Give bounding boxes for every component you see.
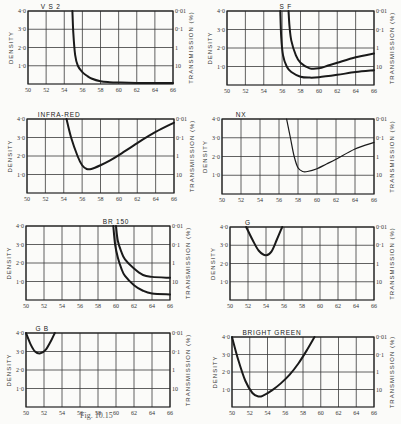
chart-title: G B <box>35 325 49 332</box>
x-tick-label: 58 <box>300 410 306 416</box>
data-curve <box>287 119 374 172</box>
x-tick-label: 56 <box>282 410 288 416</box>
chart-panel-br-150: 5052545658606264661·02·03·04·01010·10·01… <box>6 218 191 309</box>
x-tick-label: 64 <box>352 197 358 203</box>
y-tick-label: 3·0 <box>17 135 25 141</box>
x-tick-label: 64 <box>353 88 359 94</box>
y-axis-title: DENSITY <box>210 247 216 280</box>
y-tick-label: 3·0 <box>217 27 225 33</box>
y2-tick-label: 0·01 <box>376 224 387 230</box>
data-curve <box>72 11 173 83</box>
y2-tick-label: 10 <box>376 387 382 393</box>
x-tick-label: 56 <box>281 303 287 309</box>
y2-tick-label: 0·1 <box>376 135 384 141</box>
x-tick-label: 62 <box>335 303 341 309</box>
chart-title: BRIGHT GREEN <box>242 329 301 336</box>
x-tick-label: 54 <box>257 197 263 203</box>
chart-panel-s-f: 5052545658606264661·02·03·04·01010·10·01… <box>207 3 395 94</box>
y-tick-label: 3·0 <box>212 135 220 141</box>
x-tick-label: 50 <box>24 196 30 202</box>
x-tick-label: 50 <box>227 303 233 309</box>
data-curve <box>232 337 315 397</box>
chart-title: G <box>245 219 251 226</box>
y2-tick-label: 0·01 <box>376 8 387 14</box>
x-tick-label: 64 <box>353 303 359 309</box>
chart-panel-v-s-2: 5052545658606264661·02·03·04·01010·10·01… <box>8 3 194 93</box>
x-tick-label: 60 <box>318 410 324 416</box>
y2-tick-label: 0·1 <box>172 242 180 248</box>
x-tick-label: 64 <box>152 87 158 93</box>
x-tick-label: 64 <box>149 410 155 416</box>
y-tick-label: 1·0 <box>16 279 24 285</box>
y2-tick-label: 10 <box>376 64 382 70</box>
x-tick-label: 52 <box>245 303 251 309</box>
y2-tick-label: 10 <box>175 63 181 69</box>
y-tick-label: 4·0 <box>18 8 26 14</box>
y2-axis-title: TRANSMISSION (%) <box>389 336 395 409</box>
y-tick-label: 3·0 <box>220 242 228 248</box>
x-tick-label: 54 <box>59 303 65 309</box>
x-tick-label: 50 <box>229 410 235 416</box>
y-tick-label: 2·0 <box>17 153 25 159</box>
x-tick-label: 62 <box>134 87 140 93</box>
x-tick-label: 66 <box>167 410 173 416</box>
y2-tick-label: 10 <box>172 386 178 392</box>
y-tick-label: 4·0 <box>222 334 230 340</box>
y2-tick-label: 10 <box>376 279 382 285</box>
y-tick-label: 4·0 <box>217 8 225 14</box>
data-curve <box>67 119 174 169</box>
y2-tick-label: 0·1 <box>376 27 384 33</box>
chart-panel-g: 5052545658606264661·02·03·04·01010·10·01… <box>210 219 395 309</box>
y2-axis-title: TRANSMISSION (%) <box>185 227 191 300</box>
y2-tick-label: 1 <box>376 45 379 51</box>
x-tick-label: 62 <box>131 410 137 416</box>
data-curve <box>280 11 374 78</box>
x-tick-label: 54 <box>59 410 65 416</box>
y-tick-label: 2·0 <box>16 260 24 266</box>
x-tick-label: 66 <box>167 303 173 309</box>
chart-title: S F <box>280 3 293 10</box>
y-tick-label: 2·0 <box>18 45 26 51</box>
x-tick-label: 50 <box>25 87 31 93</box>
chart-title: V S 2 <box>41 3 61 10</box>
y-tick-label: 4·0 <box>212 116 220 122</box>
x-tick-label: 64 <box>149 303 155 309</box>
x-tick-label: 52 <box>242 88 248 94</box>
y-axis-title: DENSITY <box>202 140 208 173</box>
y2-tick-label: 1 <box>376 369 379 375</box>
y2-tick-label: 0·01 <box>176 116 187 122</box>
x-tick-label: 62 <box>333 197 339 203</box>
y2-axis-title: TRANSMISSION (%) <box>389 12 395 85</box>
x-tick-label: 66 <box>371 197 377 203</box>
y2-tick-label: 0·01 <box>376 116 387 122</box>
y-tick-label: 1·0 <box>220 279 228 285</box>
x-tick-label: 54 <box>61 196 67 202</box>
y-tick-label: 1·0 <box>217 64 225 70</box>
x-tick-label: 58 <box>98 87 104 93</box>
y2-tick-label: 0·01 <box>175 8 186 14</box>
x-tick-label: 50 <box>23 410 29 416</box>
x-tick-label: 58 <box>98 196 104 202</box>
y2-tick-label: 0·01 <box>376 334 387 340</box>
y-axis-title: DENSITY <box>7 139 13 172</box>
chart-panel-g-b: 5052545658606264661·02·03·04·01010·10·01… <box>6 325 191 416</box>
y2-tick-label: 0·1 <box>172 349 180 355</box>
y-tick-label: 1·0 <box>16 386 24 392</box>
x-tick-label: 64 <box>353 410 359 416</box>
y2-tick-label: 0·1 <box>176 135 184 141</box>
x-tick-label: 62 <box>131 303 137 309</box>
y-tick-label: 1·0 <box>18 63 26 69</box>
chart-title: BR 150 <box>103 218 129 225</box>
x-tick-label: 54 <box>261 88 267 94</box>
y-tick-label: 3·0 <box>18 26 26 32</box>
x-tick-label: 58 <box>95 303 101 309</box>
x-tick-label: 52 <box>43 87 49 93</box>
x-tick-label: 60 <box>316 88 322 94</box>
y2-tick-label: 0·1 <box>175 26 183 32</box>
data-curve <box>246 227 282 255</box>
y2-tick-label: 1 <box>176 153 179 159</box>
y-axis-title: DENSITY <box>207 31 213 64</box>
y-tick-label: 4·0 <box>16 223 24 229</box>
y2-axis-title: TRANSMISSION (%) <box>389 227 395 300</box>
y-axis-title: DENSITY <box>8 31 14 64</box>
